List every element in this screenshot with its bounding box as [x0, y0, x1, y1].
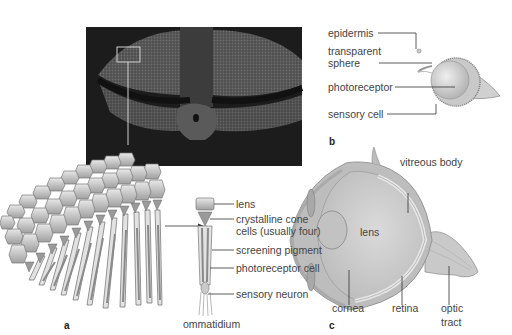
compound-eye-section	[0, 153, 204, 308]
label-tract: tract	[441, 316, 461, 328]
label-crystalline-cone: crystalline cone	[236, 213, 308, 225]
label-sensory-neuron: sensory neuron	[236, 288, 308, 300]
label-sphere: sphere	[328, 57, 360, 69]
label-lens-c: lens	[360, 226, 379, 238]
label-sensory-cell: sensory cell	[328, 108, 383, 120]
label-cornea: cornea	[332, 302, 364, 314]
panel-letter-a: a	[64, 320, 70, 331]
caption-ommatidium: ommatidium	[183, 318, 240, 330]
panel-letter-b: b	[329, 136, 335, 147]
simple-eye-diagram	[378, 33, 500, 114]
label-epidermis: epidermis	[328, 27, 374, 39]
label-lens-a: lens	[236, 198, 255, 210]
label-transparent: transparent	[328, 45, 381, 57]
panel-letter-c: c	[329, 320, 335, 331]
insect-head-photo	[86, 27, 302, 166]
label-vitreous-body: vitreous body	[400, 156, 462, 168]
label-retina: retina	[392, 302, 418, 314]
label-photoreceptor-cell: photoreceptor cell	[236, 262, 319, 274]
label-crystalline-cone-cont: cells (usually four)	[236, 225, 321, 237]
label-optic: optic	[441, 302, 463, 314]
label-photoreceptor-b: photoreceptor	[328, 81, 393, 93]
single-ommatidium	[196, 198, 234, 316]
label-screening-pigment: screening pigment	[236, 244, 322, 256]
